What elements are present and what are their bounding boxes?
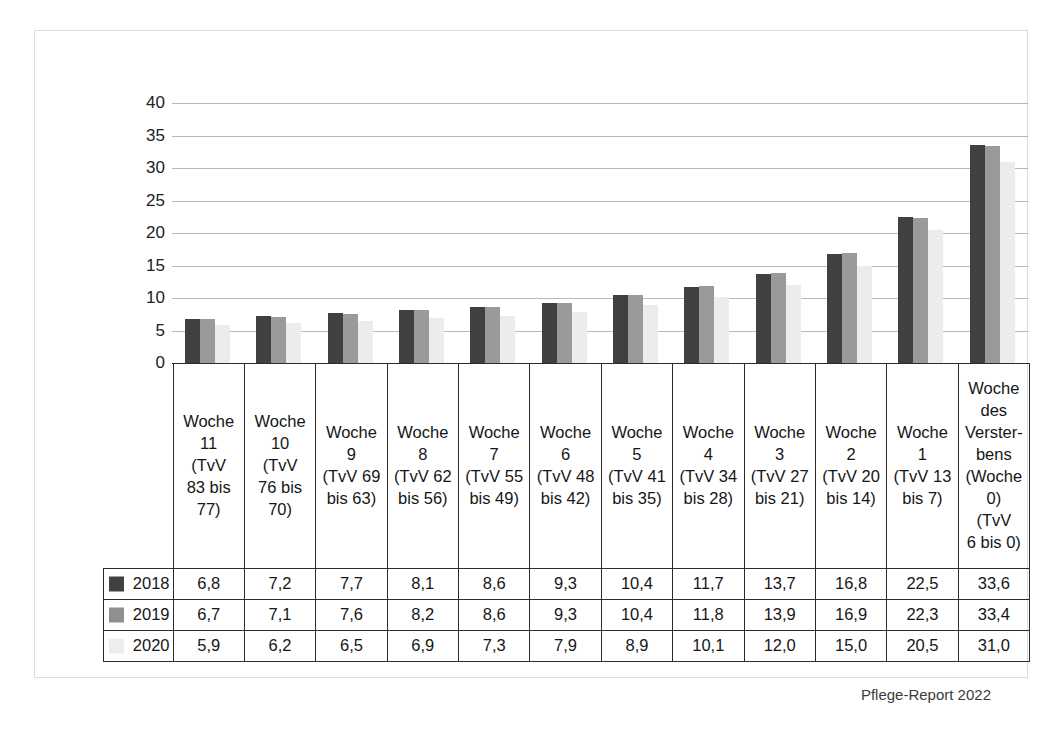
- bar-2018: [399, 310, 414, 363]
- value-cell: 8,6: [459, 600, 530, 631]
- legend-2020: 2020: [104, 631, 174, 662]
- bar-2018: [328, 313, 343, 363]
- value-cell: 7,2: [244, 569, 315, 600]
- bar-2020: [429, 318, 444, 363]
- y-axis-tick-label: 10: [146, 288, 165, 308]
- bar-2019: [200, 319, 215, 363]
- bar-2020: [572, 312, 587, 363]
- bar-group: [885, 103, 956, 363]
- bar-2020: [500, 316, 515, 363]
- bar-2019: [771, 273, 786, 363]
- column-header-4: Woche8(TvV 62bis 56): [387, 364, 458, 569]
- bar-group: [172, 103, 243, 363]
- bar-2018: [970, 145, 985, 363]
- bar-2018: [898, 217, 913, 363]
- bar-2019: [985, 146, 1000, 363]
- source-note: Pflege-Report 2022: [861, 686, 991, 703]
- column-header-11: Woche1(TvV 13bis 7): [887, 364, 958, 569]
- bar-2019: [699, 286, 714, 363]
- column-header-10: Woche2(TvV 20bis 14): [815, 364, 886, 569]
- bar-2018: [470, 307, 485, 363]
- bar-group: [814, 103, 885, 363]
- value-cell: 10,4: [601, 600, 672, 631]
- bar-2018: [684, 287, 699, 363]
- value-cell: 33,4: [958, 600, 1029, 631]
- column-header-6: Woche6(TvV 48bis 42): [530, 364, 601, 569]
- chart-frame: 0510152025303540 Woche11(TvV83 bis77)Woc…: [34, 30, 1028, 678]
- legend-swatch-icon: [109, 577, 124, 592]
- legend-swatch-icon: [109, 639, 124, 654]
- bar-2018: [256, 316, 271, 363]
- column-header-2: Woche10(TvV76 bis70): [244, 364, 315, 569]
- value-cell: 6,8: [173, 569, 244, 600]
- legend-swatch-icon: [109, 608, 124, 623]
- table-row: 20196,77,17,68,28,69,310,411,813,916,922…: [104, 600, 1030, 631]
- column-header-7: Woche5(TvV 41bis 35): [601, 364, 672, 569]
- table-row: 20205,96,26,56,97,37,98,910,112,015,020,…: [104, 631, 1030, 662]
- column-header-8: Woche4(TvV 34bis 28): [673, 364, 744, 569]
- chart-page: 0510152025303540 Woche11(TvV83 bis77)Woc…: [0, 0, 1061, 729]
- value-cell: 22,5: [887, 569, 958, 600]
- legend-label: 2019: [133, 604, 170, 626]
- y-axis-tick-label: 25: [146, 191, 165, 211]
- bar-2019: [414, 310, 429, 363]
- bar-2019: [485, 307, 500, 363]
- bar-2019: [271, 317, 286, 363]
- value-cell: 16,8: [815, 569, 886, 600]
- bar-group: [315, 103, 386, 363]
- value-cell: 16,9: [815, 600, 886, 631]
- bar-2018: [827, 254, 842, 363]
- bar-2018: [185, 319, 200, 363]
- y-axis-tick-label: 5: [156, 321, 165, 341]
- value-cell: 7,1: [244, 600, 315, 631]
- column-header-3: Woche9(TvV 69bis 63): [316, 364, 387, 569]
- value-cell: 8,6: [459, 569, 530, 600]
- bar-group: [386, 103, 457, 363]
- bar-group: [671, 103, 742, 363]
- value-cell: 20,5: [887, 631, 958, 662]
- bar-group: [743, 103, 814, 363]
- value-cell: 15,0: [815, 631, 886, 662]
- table-corner-cell: [104, 364, 174, 569]
- bar-group: [957, 103, 1028, 363]
- value-cell: 31,0: [958, 631, 1029, 662]
- value-cell: 9,3: [530, 600, 601, 631]
- value-cell: 6,5: [316, 631, 387, 662]
- bar-2019: [557, 303, 572, 363]
- bar-2018: [613, 295, 628, 363]
- value-cell: 12,0: [744, 631, 815, 662]
- bar-2020: [643, 305, 658, 363]
- bar-2018: [542, 303, 557, 363]
- bar-2019: [842, 253, 857, 363]
- value-cell: 9,3: [530, 569, 601, 600]
- value-cell: 13,7: [744, 569, 815, 600]
- value-cell: 22,3: [887, 600, 958, 631]
- value-cell: 6,2: [244, 631, 315, 662]
- table-row: 20186,87,27,78,18,69,310,411,713,716,822…: [104, 569, 1030, 600]
- value-cell: 11,7: [673, 569, 744, 600]
- legend-label: 2018: [133, 573, 170, 595]
- value-cell: 11,8: [673, 600, 744, 631]
- value-cell: 8,9: [601, 631, 672, 662]
- value-cell: 7,7: [316, 569, 387, 600]
- legend-2018: 2018: [104, 569, 174, 600]
- bar-2020: [714, 297, 729, 363]
- bar-group: [457, 103, 528, 363]
- value-cell: 33,6: [958, 569, 1029, 600]
- y-axis-tick-label: 30: [146, 158, 165, 178]
- bar-2019: [343, 314, 358, 363]
- bar-group: [243, 103, 314, 363]
- bar-2020: [358, 321, 373, 363]
- y-axis-tick-label: 40: [146, 93, 165, 113]
- value-cell: 10,4: [601, 569, 672, 600]
- bar-groups: [172, 103, 1028, 363]
- column-header-1: Woche11(TvV83 bis77): [173, 364, 244, 569]
- plot-area: 0510152025303540: [172, 103, 1028, 363]
- bar-2020: [1000, 162, 1015, 364]
- bar-group: [529, 103, 600, 363]
- bar-2020: [286, 323, 301, 363]
- value-cell: 7,9: [530, 631, 601, 662]
- bar-2018: [756, 274, 771, 363]
- value-cell: 8,1: [387, 569, 458, 600]
- bar-2019: [628, 295, 643, 363]
